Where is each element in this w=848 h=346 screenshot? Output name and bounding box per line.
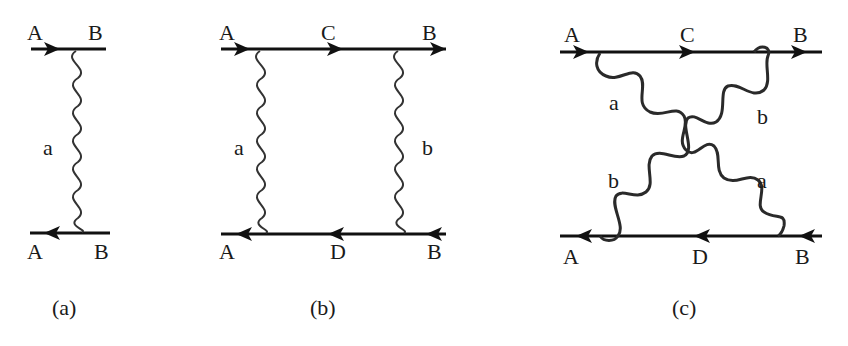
caption-a: (a) [52,295,76,320]
label-bottom-right: B [94,239,109,264]
label-top-left: A [27,20,43,45]
label-bottom-left: A [219,239,235,264]
caption-c: (c) [672,295,696,320]
exchange-label-a-lower: a [757,168,767,193]
exchange-label-a-upper: a [609,90,619,115]
label-top-right: B [88,20,103,45]
exchange-label-b-upper: b [757,104,768,129]
label-bottom-left: A [563,244,579,269]
boson-wave-a [72,51,83,232]
label-bottom-middle: D [330,239,346,264]
diagram-c: A C B A D B a b b a (c) [560,22,822,320]
label-top-middle: C [680,22,695,47]
label-bottom-middle: D [692,244,708,269]
boson-wave-a-crossed [597,53,785,236]
label-bottom-right: B [795,244,810,269]
exchange-label-a: a [234,135,244,160]
exchange-label-a: a [43,135,53,160]
label-bottom-left: A [27,239,43,264]
label-top-left: A [219,20,235,45]
diagram-b: A C B A D B a b (b) [219,20,446,320]
label-top-right: B [422,20,437,45]
boson-wave-a [256,51,267,233]
boson-wave-b [394,51,405,233]
label-top-left: A [564,22,580,47]
feynman-diagrams-canvas: A B A B a (a) A C B A D B a b (b) [0,0,848,346]
exchange-label-b-lower: b [608,168,619,193]
exchange-label-b: b [422,135,433,160]
boson-wave-b-crossed [600,47,769,240]
label-top-right: B [793,22,808,47]
label-bottom-right: B [427,239,442,264]
caption-b: (b) [310,295,336,320]
label-top-middle: C [321,20,336,45]
diagram-a: A B A B a (a) [27,20,110,320]
